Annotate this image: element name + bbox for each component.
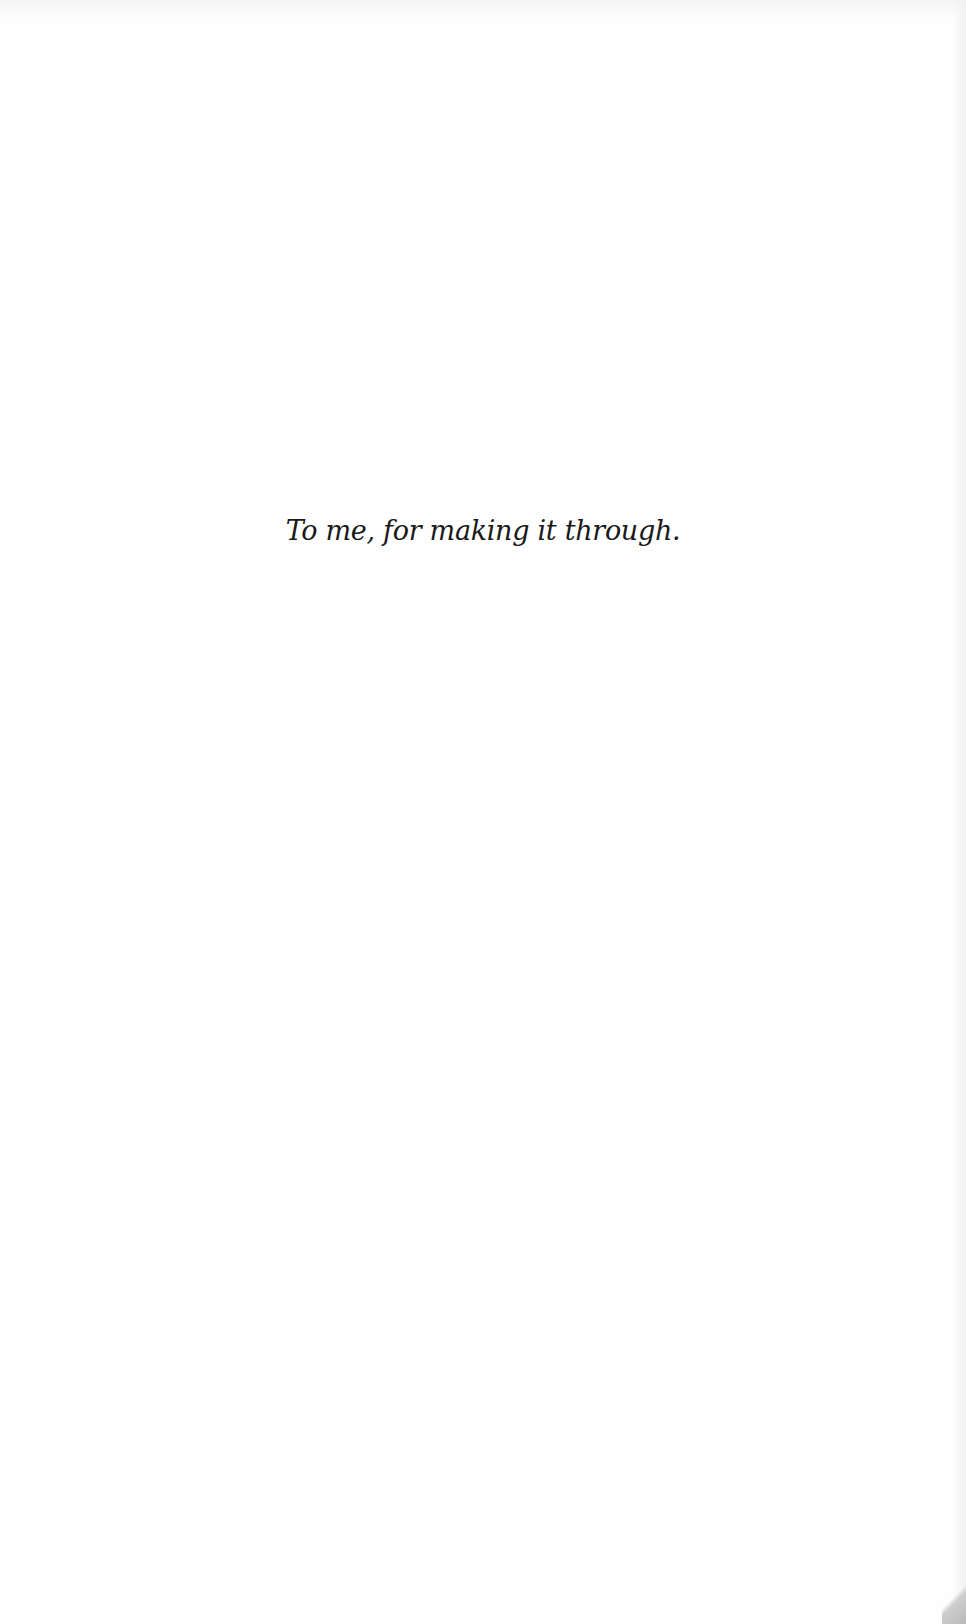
scan-top-edge: [0, 0, 966, 18]
book-page: To me, for making it through.: [0, 0, 966, 1624]
dedication-text: To me, for making it through.: [0, 511, 966, 551]
page-corner-curl: [942, 1576, 966, 1624]
scan-right-edge: [952, 0, 966, 1624]
